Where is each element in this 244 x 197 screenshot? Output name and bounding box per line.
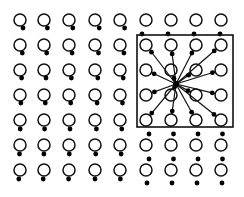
displaced-dot [121, 76, 126, 81]
lattice-circle [38, 114, 50, 126]
lattice-circle [38, 139, 50, 151]
displaced-dot [212, 48, 217, 53]
lattice-circle [89, 89, 101, 101]
displaced-dot [69, 76, 74, 81]
lattice-circle [215, 14, 227, 26]
lattice-circle [114, 39, 126, 51]
lattice-circle [190, 14, 202, 26]
displaced-dot [96, 51, 101, 56]
displaced-dot [70, 26, 75, 31]
displaced-dot [220, 157, 225, 162]
lattice-circle [215, 114, 227, 126]
lattice-circle [114, 14, 126, 26]
displaced-dot [119, 152, 124, 157]
lattice-circle [140, 139, 152, 151]
displaced-dot [120, 101, 125, 106]
lattice-circle [63, 14, 75, 26]
displaced-dot [172, 76, 177, 81]
lattice-circle [38, 164, 50, 176]
lattice-circle [63, 39, 75, 51]
displaced-dot [220, 181, 225, 186]
convergence-lines [150, 49, 217, 116]
lattice-circle [165, 164, 177, 176]
lattice-circle [140, 14, 152, 26]
lattice-circle [89, 114, 101, 126]
displaced-dot [44, 51, 49, 56]
center-point [173, 81, 179, 87]
displaced-dot [94, 127, 99, 132]
lattice-circle [215, 64, 227, 76]
lattice-circle [14, 114, 26, 126]
lattice-circle [63, 164, 75, 176]
displaced-dot [16, 177, 21, 182]
lattice-circle [165, 114, 177, 126]
displaced-dot [122, 26, 127, 31]
lattice-circle [165, 139, 177, 151]
lattice-circle [114, 139, 126, 151]
lattice-circle [190, 89, 202, 101]
displaced-dot [149, 111, 154, 116]
displaced-dot [67, 152, 72, 157]
displaced-dot [97, 26, 102, 31]
displaced-dot [171, 132, 176, 137]
displaced-dot [18, 127, 23, 132]
displaced-dot [171, 157, 176, 162]
displaced-dot [147, 132, 152, 137]
displaced-dot [68, 101, 73, 106]
lattice-circle [38, 89, 50, 101]
lattice-circle [190, 139, 202, 151]
lattice-circle [63, 114, 75, 126]
lattice-circle [89, 64, 101, 76]
displaced-dot [70, 51, 75, 56]
lattice-circle [140, 64, 152, 76]
displaced-dot [95, 76, 100, 81]
displaced-dot [119, 127, 124, 132]
lattice-circle [215, 89, 227, 101]
displaced-dot [220, 132, 225, 137]
displaced-dot [21, 26, 26, 31]
lattice-circle [114, 64, 126, 76]
lattice-circle [14, 14, 26, 26]
displaced-dot [147, 157, 152, 162]
displaced-dot [196, 132, 201, 137]
lattice-circle [14, 139, 26, 151]
displaced-dot [95, 101, 100, 106]
lattice-circle [89, 164, 101, 176]
displaced-dot [212, 112, 217, 117]
lattice-circle [14, 164, 26, 176]
displaced-dot [19, 76, 24, 81]
displaced-dot [170, 181, 175, 186]
displaced-dot [145, 181, 150, 186]
displaced-dot [20, 51, 25, 56]
displaced-dot [68, 127, 73, 132]
displaced-dot [118, 177, 123, 182]
lattice-circle [190, 39, 202, 51]
displaced-dot [170, 52, 175, 57]
displaced-dot [189, 110, 194, 115]
displaced-dot [196, 157, 201, 162]
lattice-circle [165, 14, 177, 26]
lattice-circle [38, 39, 50, 51]
lattice-circle [140, 39, 152, 51]
displaced-dot [43, 101, 48, 106]
displaced-dot [210, 70, 215, 75]
lattice-circle [38, 14, 50, 26]
lattice-circle [114, 114, 126, 126]
displaced-dot [19, 101, 24, 106]
lattice-circle [140, 164, 152, 176]
lattice-circle [63, 64, 75, 76]
displaced-dot [93, 152, 98, 157]
lattice-circle [63, 139, 75, 151]
lattice-circle [89, 139, 101, 151]
displaced-dot [170, 109, 175, 114]
lattice-circle [89, 14, 101, 26]
lattice-circle [190, 164, 202, 176]
displaced-dot [93, 177, 98, 182]
lattice-circle [165, 39, 177, 51]
displaced-dot [186, 73, 191, 78]
displaced-dot [42, 152, 47, 157]
displaced-dot [122, 51, 127, 56]
displaced-dot [44, 76, 49, 81]
lattice-circle [215, 139, 227, 151]
lattice-circle [14, 39, 26, 51]
